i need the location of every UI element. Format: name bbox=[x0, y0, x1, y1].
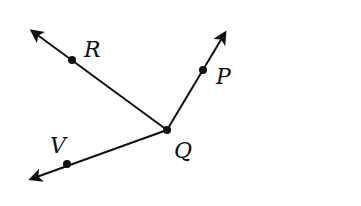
label-p: P bbox=[215, 64, 232, 89]
point-q bbox=[163, 126, 171, 134]
point-v bbox=[63, 160, 71, 168]
label-r: R bbox=[83, 37, 101, 62]
point-r bbox=[68, 56, 76, 64]
geometry-diagram: R P Q V bbox=[0, 0, 361, 206]
point-p bbox=[199, 66, 207, 74]
label-q: Q bbox=[174, 138, 192, 163]
label-v: V bbox=[50, 133, 68, 158]
